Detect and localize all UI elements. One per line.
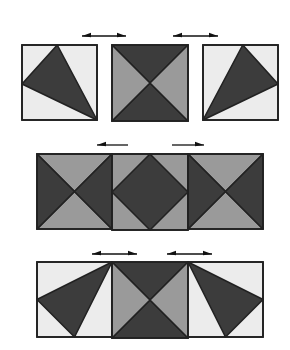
row-joined-variant-1 bbox=[37, 142, 263, 230]
square-diamond bbox=[112, 154, 188, 230]
square-hourglass-dark-horizontal bbox=[188, 154, 263, 229]
arrow-right bbox=[172, 142, 204, 146]
arrow-both bbox=[167, 251, 212, 255]
square-kite-right bbox=[203, 45, 278, 120]
row-separated-blocks bbox=[22, 33, 278, 121]
square-hourglass-dark-vertical bbox=[112, 262, 188, 338]
square-kite-left-b bbox=[37, 262, 112, 337]
row-joined-variant-2 bbox=[37, 251, 263, 338]
arrow-both bbox=[82, 33, 126, 37]
arrow-both bbox=[92, 251, 137, 255]
square-kite-left bbox=[22, 45, 97, 120]
quilt-block-diagram bbox=[0, 0, 290, 350]
square-hourglass-dark-horizontal bbox=[37, 154, 112, 229]
arrow-left bbox=[97, 142, 128, 146]
arrow-both bbox=[173, 33, 218, 37]
square-kite-right-b bbox=[188, 262, 263, 337]
square-hourglass-dark-vertical bbox=[112, 45, 188, 121]
